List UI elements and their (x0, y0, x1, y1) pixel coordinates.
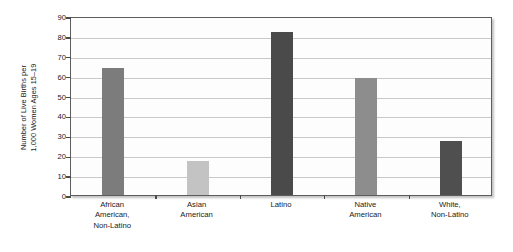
x-axis-label-1-line-3: Non-Latino (70, 221, 154, 231)
y-tick-label-20: 20 (44, 152, 66, 161)
bar-5 (440, 141, 462, 195)
x-axis-label-4-line-1: Native (323, 200, 407, 210)
x-axis-label-4: NativeAmerican (323, 200, 407, 221)
y-tick-label-70: 70 (44, 52, 66, 61)
x-tick-mark-1 (155, 195, 156, 199)
y-tick-label-40: 40 (44, 112, 66, 121)
x-axis-label-1-line-1: African (70, 200, 154, 210)
x-axis-label-4-line-2: American (323, 210, 407, 220)
x-axis-category-labels: AfricanAmerican,Non-LatinoAsianAmericanL… (70, 200, 492, 250)
x-axis-label-5-line-1: White, (408, 200, 492, 210)
x-axis-label-2-line-1: Asian (154, 200, 238, 210)
y-tick-label-80: 80 (44, 32, 66, 41)
gridline-0 (71, 197, 491, 198)
y-tick-label-30: 30 (44, 132, 66, 141)
x-axis-label-5-line-2: Non-Latino (408, 210, 492, 220)
bar-3 (271, 32, 293, 195)
x-axis-label-1: AfricanAmerican,Non-Latino (70, 200, 154, 231)
x-axis-label-3-line-1: Latino (239, 200, 323, 210)
x-tick-mark-3 (324, 195, 325, 199)
bar-series (71, 18, 491, 195)
y-axis-title-line-2: 1,000 Women Ages 15–19 (29, 64, 39, 152)
bar-1 (102, 68, 124, 195)
y-tick-label-60: 60 (44, 72, 66, 81)
y-axis-title-text: Number of Live Births per 1,000 Women Ag… (19, 64, 38, 152)
y-axis-title: Number of Live Births per 1,000 Women Ag… (12, 28, 46, 188)
x-axis-label-2: AsianAmerican (154, 200, 238, 221)
x-axis-label-3: Latino (239, 200, 323, 210)
y-axis-tick-labels: 0102030405060708090 (44, 17, 66, 196)
x-axis-label-1-line-2: American, (70, 210, 154, 220)
bar-2 (187, 161, 209, 195)
y-tick-label-50: 50 (44, 92, 66, 101)
y-tick-mark-0 (66, 196, 71, 197)
plot-area (70, 17, 492, 196)
x-axis-label-5: White,Non-Latino (408, 200, 492, 221)
y-axis-title-line-1: Number of Live Births per (19, 64, 29, 152)
x-tick-mark-2 (240, 195, 241, 199)
y-tick-label-90: 90 (44, 13, 66, 22)
bar-chart-figure: Number of Live Births per 1,000 Women Ag… (0, 0, 513, 252)
y-tick-label-10: 10 (44, 172, 66, 181)
x-axis-label-2-line-2: American (154, 210, 238, 220)
x-tick-mark-4 (409, 195, 410, 199)
y-tick-label-0: 0 (44, 192, 66, 201)
bar-4 (355, 78, 377, 195)
